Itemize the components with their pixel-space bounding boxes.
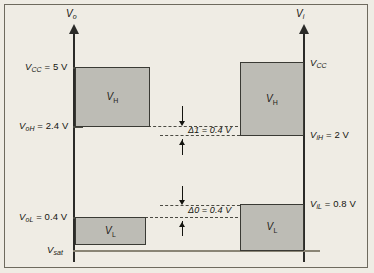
- input-high-block-label: VH: [266, 93, 278, 106]
- vih-projection-dash: [160, 135, 240, 136]
- input-axis-label: Vi: [296, 8, 304, 20]
- output-axis-label-text: V: [66, 8, 73, 19]
- delta-zero-label: Δ0 = 0.4 V: [188, 205, 231, 215]
- output-high-block-label-sub: H: [113, 97, 118, 104]
- input-high-block: VH: [240, 62, 304, 136]
- delta-zero-stem-top: [182, 186, 183, 201]
- vcc-label: VCC = 5 V: [25, 61, 67, 73]
- right-vcc-label-sub: CC: [316, 62, 326, 69]
- output-axis-arrowhead: [69, 24, 79, 34]
- input-low-block-label: VL: [267, 221, 278, 234]
- noise-margin-diagram: Vo Vi VH VH VL VL VCC = 5 V: [0, 0, 374, 273]
- output-high-block-label: VH: [106, 91, 118, 104]
- input-high-block-label-text: V: [266, 93, 273, 104]
- vcc-label-value: = 5 V: [42, 61, 68, 72]
- output-high-block: VH: [75, 67, 150, 127]
- vih-label-value: = 2 V: [323, 129, 349, 140]
- vil-label: ViL = 0.8 V: [310, 198, 356, 210]
- vol-label-value: = 0.4 V: [33, 211, 67, 222]
- output-low-block-label-text: V: [105, 225, 112, 236]
- vol-projection-dash: [145, 217, 238, 218]
- delta-zero-stem-bottom: [182, 221, 183, 236]
- delta-one-stem-bottom: [182, 139, 183, 155]
- input-low-block-label-sub: L: [273, 227, 277, 234]
- delta-one-label: Δ1 = 0.4 V: [188, 125, 231, 135]
- input-axis-label-sub: i: [303, 13, 305, 20]
- input-axis-label-text: V: [296, 8, 303, 19]
- input-high-block-label-sub: H: [273, 99, 278, 106]
- output-axis-label-sub: o: [73, 13, 77, 20]
- right-vcc-label: VCC: [310, 57, 327, 69]
- vcc-label-sub: CC: [31, 66, 41, 73]
- output-low-block-label: VL: [105, 225, 116, 238]
- output-low-block: VL: [75, 217, 146, 245]
- vih-label: ViH = 2 V: [310, 129, 349, 141]
- vol-label: VoL = 0.4 V: [19, 211, 67, 223]
- input-low-block: VL: [240, 204, 304, 251]
- delta-one-stem-top: [182, 106, 183, 122]
- vsat-label: Vsat: [47, 244, 63, 256]
- output-low-block-label-sub: L: [112, 231, 116, 238]
- vsat-label-sub: sat: [53, 249, 63, 256]
- voh-label: VoH = 2.4 V: [19, 120, 68, 132]
- output-axis-label: Vo: [66, 8, 77, 20]
- voh-label-value: = 2.4 V: [35, 120, 69, 131]
- vil-label-value: = 0.8 V: [322, 198, 356, 209]
- input-axis-arrowhead: [299, 24, 309, 34]
- voh-label-sub: oH: [25, 125, 34, 132]
